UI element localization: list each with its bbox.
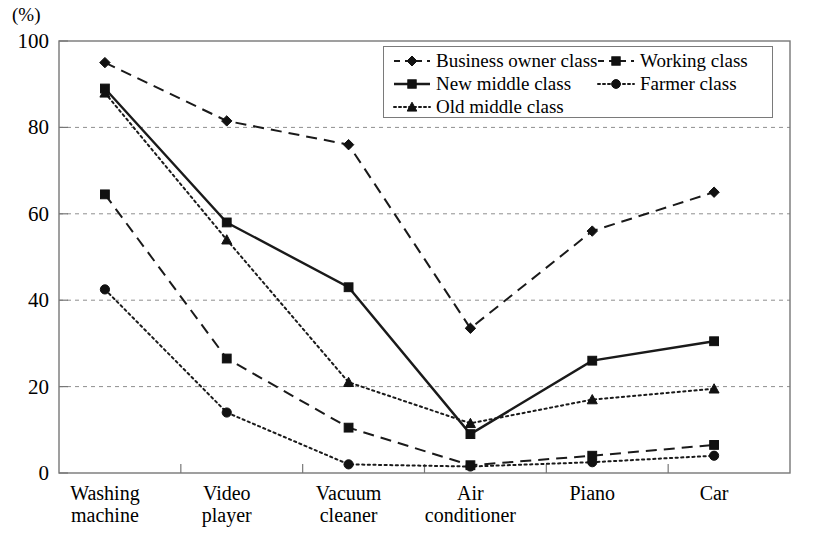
legend-label: Business owner class (436, 50, 597, 72)
marker-circle (612, 80, 621, 89)
legend-item-old-middle-class[interactable]: Old middle class (392, 96, 564, 118)
legend: Business owner classWorking classNew mid… (383, 46, 773, 118)
marker-square (344, 283, 353, 292)
marker-square (710, 441, 719, 450)
line-chart: (%) 020406080100 Washing machineVideo pl… (0, 0, 814, 541)
legend-item-working-class[interactable]: Working class (596, 50, 748, 72)
legend-marker-diamond-icon (392, 53, 432, 69)
marker-square (222, 354, 231, 363)
marker-square (222, 218, 231, 227)
legend-marker-circle-icon (596, 76, 636, 92)
marker-square (588, 356, 597, 365)
legend-marker-triangle-icon (392, 99, 432, 115)
marker-square (612, 57, 620, 65)
marker-circle (588, 458, 597, 467)
series-line (105, 93, 714, 423)
marker-diamond (407, 56, 417, 66)
series-old-middle-class (100, 88, 719, 428)
series-new-middle-class (101, 84, 719, 438)
marker-square (408, 80, 416, 88)
marker-triangle (344, 377, 354, 386)
y-tick-label-100: 100 (3, 29, 49, 54)
y-tick-label-60: 60 (3, 201, 49, 226)
marker-diamond (222, 116, 232, 126)
x-tick-label-5: Car (634, 483, 794, 505)
y-tick-label-40: 40 (3, 288, 49, 313)
marker-circle (709, 451, 718, 460)
marker-circle (222, 408, 231, 417)
legend-item-business-owner-class[interactable]: Business owner class (392, 50, 597, 72)
y-axis-unit-label: (%) (12, 4, 40, 26)
legend-label: Farmer class (640, 73, 737, 95)
marker-square (710, 337, 719, 346)
y-tick-label-80: 80 (3, 115, 49, 140)
marker-square (344, 423, 353, 432)
series-working-class (101, 190, 719, 470)
marker-diamond (343, 139, 353, 149)
marker-diamond (465, 323, 475, 333)
marker-circle (100, 285, 109, 294)
marker-square (466, 430, 475, 439)
marker-square (101, 190, 110, 199)
legend-item-new-middle-class[interactable]: New middle class (392, 73, 571, 95)
marker-diamond (100, 57, 110, 67)
marker-circle (466, 462, 475, 471)
legend-marker-square-icon (596, 53, 636, 69)
legend-item-farmer-class[interactable]: Farmer class (596, 73, 737, 95)
y-tick-label-0: 0 (3, 461, 49, 486)
marker-circle (344, 460, 353, 469)
legend-marker-square-icon (392, 76, 432, 92)
marker-diamond (709, 187, 719, 197)
legend-label: Old middle class (436, 96, 564, 118)
y-tick-label-20: 20 (3, 374, 49, 399)
legend-label: Working class (640, 50, 748, 72)
legend-label: New middle class (436, 73, 571, 95)
